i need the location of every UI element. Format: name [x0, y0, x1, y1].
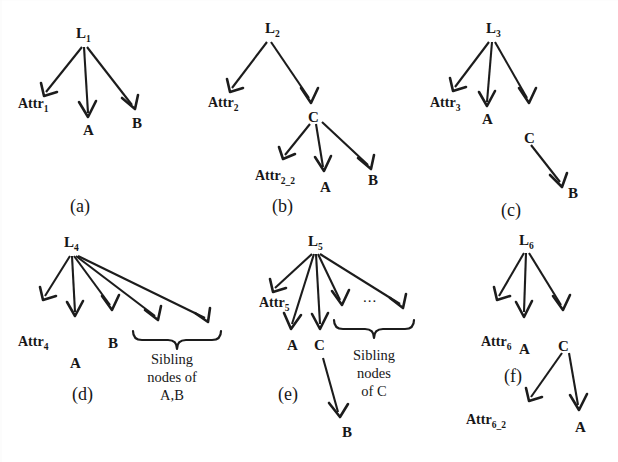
caption-f: (f) [504, 366, 522, 387]
caption-e: (e) [278, 384, 298, 405]
edge-a-l-to-a [84, 47, 88, 113]
node-c-root: L3 [486, 20, 501, 39]
node-c-b: B [568, 185, 578, 201]
edge-a-l-to-attr [46, 47, 82, 92]
edge-b-l-to-attr [232, 42, 267, 88]
edge-b-c-to-attr2 [285, 124, 310, 155]
node-f-c: C [558, 338, 569, 354]
edge-a-l-to-b [87, 47, 132, 105]
panel-e: L5 Attr5 A C B ... Sibling nodes of C (e… [259, 233, 414, 440]
figure-root: L1 Attr1 A B (a) L2 Attr2 [0, 0, 618, 462]
edge-c-l-to-attr [455, 42, 489, 87]
node-b-attr: Attr2 [208, 95, 239, 113]
edge-e-l-to-attr [275, 254, 312, 288]
node-e-b: B [342, 424, 352, 440]
node-c-a: A [482, 111, 493, 127]
arrowhead-e-sib1 [332, 290, 349, 305]
brace-label-e-line2: nodes [357, 365, 391, 381]
node-a-root: L1 [76, 25, 91, 44]
node-f-root: L6 [519, 232, 534, 251]
arrowhead-d-sib2 [195, 308, 210, 322]
node-a-a: A [83, 122, 94, 138]
brace-label-d-line3: A,B [160, 387, 184, 403]
arrowhead-d-attr [40, 287, 56, 300]
caption-c: (c) [501, 200, 521, 221]
tree-diagram-canvas: L1 Attr1 A B (a) L2 Attr2 [0, 0, 618, 462]
arrowhead-d-sib1 [145, 306, 161, 320]
node-b-c: C [308, 109, 319, 125]
brace-label-d-line1: Sibling [151, 351, 193, 367]
edge-d-l-to-a [72, 256, 75, 312]
node-b-attr2: Attr2_2 [255, 168, 295, 186]
caption-b: (b) [272, 196, 293, 217]
edge-f-l-to-c [529, 253, 561, 305]
node-e-root: L5 [308, 233, 323, 252]
arrowhead-e-sib2 [390, 294, 406, 308]
brace-label-e-line3: of C [361, 383, 386, 399]
node-f-attr2: Attr6_2 [466, 412, 506, 430]
edge-d-l-to-attr [45, 256, 70, 296]
node-d-root: L4 [64, 234, 79, 253]
edge-d-l-to-sib1 [76, 256, 155, 316]
edge-e-l-to-a [292, 254, 314, 324]
node-e-a: A [287, 337, 298, 353]
node-b-root: L2 [265, 20, 280, 39]
panel-c: L3 Attr3 A C B (c) [430, 20, 578, 221]
panel-a: L1 Attr1 A B (a) [18, 25, 142, 217]
node-f-a2: A [575, 419, 586, 435]
node-b-b: B [368, 172, 378, 188]
node-a-b: B [132, 115, 142, 131]
caption-d: (d) [72, 384, 93, 405]
edge-c-l-to-c [495, 42, 527, 98]
edge-f-c-to-attr2 [531, 353, 562, 397]
edge-e-l-to-sib1 [318, 254, 340, 300]
edge-c-c-to-b [531, 145, 560, 182]
edge-e-l-to-c [316, 254, 320, 324]
brace-d-siblings [133, 331, 221, 349]
brace-label-d-line2: nodes of [147, 369, 197, 385]
edge-f-l-to-attr [499, 253, 524, 296]
panel-f: L6 Attr6 A C Attr6_2 A (f) [466, 232, 587, 435]
node-d-a: A [70, 355, 81, 371]
node-e-attr: Attr5 [259, 295, 290, 313]
node-d-b: B [108, 335, 118, 351]
edge-e-l-to-sib2 [320, 254, 400, 304]
node-c-attr: Attr3 [430, 95, 461, 113]
arrowhead-c-c [519, 88, 536, 103]
node-c-c: C [524, 130, 535, 146]
node-f-attr: Attr6 [481, 334, 512, 352]
node-d-attr: Attr4 [18, 334, 49, 352]
node-b-a: A [320, 179, 331, 195]
panel-d: L4 Attr4 A B Sibling nodes of A,B (d) [18, 234, 221, 405]
arrowhead-b-c [301, 88, 318, 103]
brace-e-siblings [334, 320, 414, 338]
node-a-attr: Attr1 [18, 96, 49, 114]
node-f-a: A [519, 341, 530, 357]
edge-f-l-to-a [524, 253, 526, 312]
node-e-c: C [314, 337, 325, 353]
ellipsis-e: ... [363, 289, 377, 305]
caption-a: (a) [70, 196, 90, 217]
panel-b: L2 Attr2 C Attr2_2 A B (b) [208, 20, 378, 217]
edge-c-l-to-a [487, 42, 492, 102]
brace-label-e-line1: Sibling [353, 347, 395, 363]
